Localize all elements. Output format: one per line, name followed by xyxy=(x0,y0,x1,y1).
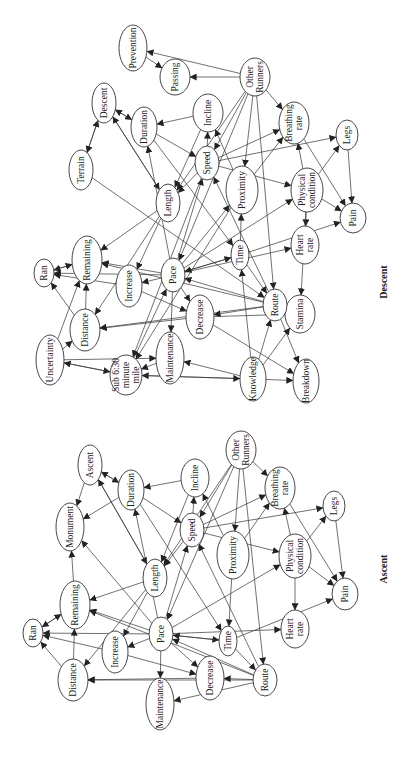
edge-other_runners-to-breathing_rate xyxy=(266,90,283,110)
edge-time-to-route xyxy=(247,265,267,294)
edge-decrease-to-distance xyxy=(88,678,196,680)
node-ran: Ran xyxy=(34,259,54,287)
node-label: Stamina xyxy=(295,298,305,330)
node-duration: Duration xyxy=(131,107,157,147)
edge-pace-to-decrease xyxy=(171,643,198,667)
edge-pace-to-proximity xyxy=(182,205,230,264)
node-label: Distance xyxy=(80,313,90,346)
edge-physical_condition-to-pain xyxy=(322,199,342,211)
node-other-runners: OtherRunners xyxy=(240,58,270,96)
node-label: Descent xyxy=(99,87,109,118)
edge-incline-to-duration xyxy=(144,481,181,488)
node-breathing-rate: Breathingrate xyxy=(279,102,309,144)
node-passing: Passing xyxy=(160,59,190,95)
node-label: Time xyxy=(235,245,245,265)
node-label: Pain xyxy=(340,585,350,602)
edge-incline-to-duration xyxy=(157,116,193,124)
node-label: Distance xyxy=(68,663,78,696)
node-label: Increase xyxy=(110,636,120,668)
edge-physical_condition-to-breathing_rate xyxy=(284,508,290,535)
edge-knowledge-to-stamina xyxy=(263,328,290,365)
edge-proximity-to-incline xyxy=(203,494,224,536)
node-pain: Pain xyxy=(332,578,358,610)
node-label: Proximity xyxy=(237,171,247,209)
node-label: Ran xyxy=(28,625,38,641)
node-ascent: Ascent xyxy=(78,445,102,485)
node-label: Ascent xyxy=(85,451,95,478)
node-route: Route xyxy=(263,289,287,321)
edge-pace-to-speed xyxy=(166,546,188,619)
node-label: Remaining xyxy=(82,239,92,281)
node-uncertainty: Uncertainty xyxy=(36,335,64,385)
node-prevention: Prevention xyxy=(119,25,147,71)
node-label: Route xyxy=(260,669,270,692)
ascent-graph: OtherRunnersAscentDurationInclineBreathi… xyxy=(23,431,389,730)
edge-pace-to-ran xyxy=(43,633,149,634)
edge-length-to-increase xyxy=(137,218,161,269)
node-route: Route xyxy=(253,664,277,696)
edge-distance-to-remaining xyxy=(86,284,87,309)
node-descent: Descent xyxy=(92,83,116,123)
edge-knowledge-to-breakdown xyxy=(266,379,293,380)
edge-time-to-route xyxy=(236,649,256,670)
edge-other_runners-to-breathing_rate xyxy=(253,462,268,476)
edge-prevention-to-passing xyxy=(146,57,162,68)
edge-pace-to-speed xyxy=(178,179,203,260)
ascent-title: Ascent xyxy=(378,554,389,584)
edge-increase-to-decrease xyxy=(128,656,196,675)
edge-route-to-distance xyxy=(100,307,263,328)
edge-sub_630-to-uncertainty xyxy=(64,363,110,372)
edge-physical_condition-to-legs xyxy=(307,516,326,541)
edge-distance-to-ran xyxy=(51,283,74,315)
edge-duration-to-speed xyxy=(143,498,181,523)
edge-proximity-to-time xyxy=(229,579,232,626)
edge-pace-to-decrease xyxy=(181,288,190,302)
node-remaining: Remaining xyxy=(72,236,102,284)
edge-distance-to-ran xyxy=(41,642,62,666)
edge-speed-to-length xyxy=(164,541,183,565)
node-label: Remaining xyxy=(70,584,80,626)
node-speed: Speed xyxy=(180,513,204,547)
edge-remaining-to-monument xyxy=(72,551,74,581)
node-label: Ran xyxy=(39,265,49,281)
node-maintenance: Maintenance xyxy=(146,678,174,730)
node-knowledge: Knowledge xyxy=(240,357,266,401)
node-label: Incline xyxy=(190,465,200,491)
node-legs: Legs xyxy=(336,120,358,150)
node-label: Maintenance xyxy=(155,679,165,728)
node-increase: Increase xyxy=(116,265,142,307)
node-physical-condition: Physicalcondition xyxy=(291,168,323,212)
edge-knowledge-to-time xyxy=(242,270,251,358)
node-distance: Distance xyxy=(58,659,88,701)
edge-other_runners-to-route xyxy=(257,96,274,289)
edge-pace-to-maintenance xyxy=(171,292,172,332)
node-label: Physicalcondition xyxy=(297,172,317,208)
node-label: Speed xyxy=(202,151,212,174)
descent-graph: PreventionPassingOtherRunnersDescentDura… xyxy=(34,25,389,403)
node-legs: Legs xyxy=(323,491,345,521)
node-label: Decrease xyxy=(205,661,215,696)
node-label: Breakdown xyxy=(301,359,311,403)
node-duration: Duration xyxy=(118,470,144,510)
edge-duration-to-monument xyxy=(83,497,119,519)
node-label: Physicalcondition xyxy=(285,538,305,574)
edge-increase-to-ran xyxy=(43,635,102,649)
node-physical-condition: Physicalcondition xyxy=(279,534,311,578)
edge-time-to-pace xyxy=(173,635,219,640)
edge-time-to-proximity xyxy=(240,214,241,240)
node-time: Time xyxy=(219,626,237,656)
node-monument: Monument xyxy=(56,503,84,551)
node-label: Increase xyxy=(124,270,134,302)
node-proximity: Proximity xyxy=(217,531,249,579)
node-decrease: Decrease xyxy=(196,656,224,700)
node-ran: Ran xyxy=(23,619,43,647)
node-other-runners: OtherRunners xyxy=(226,431,256,469)
edge-length-to-increase xyxy=(124,592,148,636)
edge-sub_630-to-knowledge xyxy=(142,376,240,379)
node-label: Pain xyxy=(348,209,358,226)
node-label: Maintenance xyxy=(165,333,175,382)
node-time: Time xyxy=(231,240,249,270)
node-label: Pace xyxy=(168,266,178,284)
node-label: Legs xyxy=(329,496,339,515)
edge-pace-to-increase xyxy=(142,278,161,283)
